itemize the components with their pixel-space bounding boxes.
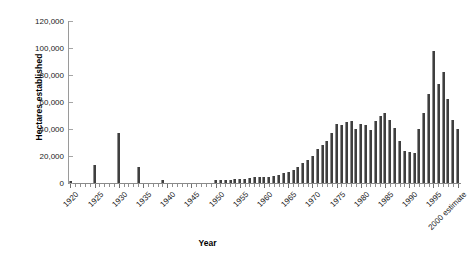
- x-axis-tick-mark: [143, 184, 144, 188]
- x-axis-tick-mark: [317, 184, 318, 187]
- bar: [364, 125, 367, 183]
- bar: [272, 176, 275, 183]
- x-axis-tick-mark: [109, 184, 110, 187]
- bar: [350, 121, 353, 183]
- x-axis-tick-mark: [245, 184, 246, 187]
- bar: [321, 145, 324, 183]
- bar: [354, 129, 357, 183]
- y-axis-tick-mark: [69, 75, 73, 76]
- bar: [137, 167, 140, 183]
- x-axis-tick-label: 1955: [231, 190, 250, 209]
- x-axis-tick-mark: [196, 184, 197, 187]
- x-axis-tick-mark: [167, 184, 168, 188]
- x-axis-tick-mark: [259, 184, 260, 187]
- x-axis-tick-mark: [128, 184, 129, 187]
- x-axis-tick-mark: [448, 184, 449, 187]
- bar: [340, 125, 343, 183]
- bar: [292, 170, 295, 183]
- x-axis-tick-mark: [341, 184, 342, 187]
- x-axis-tick-mark: [288, 184, 289, 188]
- bar: [393, 128, 396, 183]
- x-axis-tick-mark: [419, 184, 420, 187]
- bar: [161, 180, 164, 183]
- bar: [369, 130, 372, 183]
- bar: [258, 177, 261, 183]
- x-axis-tick-mark: [356, 184, 357, 187]
- bar: [442, 72, 445, 183]
- bar: [287, 172, 290, 183]
- x-axis-tick-mark: [298, 184, 299, 187]
- x-axis-tick-label: 1965: [280, 190, 299, 209]
- x-axis-tick-mark: [90, 184, 91, 187]
- bar: [325, 141, 328, 183]
- x-axis-tick-mark: [191, 184, 192, 188]
- x-axis-tick-mark: [99, 184, 100, 187]
- x-axis-tick-mark: [322, 184, 323, 187]
- bar: [229, 180, 232, 184]
- bar: [379, 116, 382, 184]
- x-axis-tick-mark: [390, 184, 391, 187]
- x-axis-tick-mark: [303, 184, 304, 187]
- bar: [388, 120, 391, 183]
- x-axis-tick-mark: [172, 184, 173, 187]
- x-axis-tick-label: 1980: [352, 190, 371, 209]
- x-axis-tick-label: 1975: [328, 190, 347, 209]
- y-axis-tick-labels: 020,00040,00060,00080,000100,000120,000: [0, 0, 64, 264]
- bar: [437, 84, 440, 183]
- bar: [432, 51, 435, 183]
- x-axis-tick-mark: [337, 184, 338, 188]
- bar: [262, 177, 265, 183]
- x-axis-tick-mark: [206, 184, 207, 187]
- bar: [422, 113, 425, 183]
- x-axis-tick-mark: [308, 184, 309, 187]
- bar: [296, 167, 299, 183]
- x-axis-tick-mark: [269, 184, 270, 187]
- bar: [233, 179, 236, 183]
- x-axis-tick-mark: [119, 184, 120, 188]
- x-axis-tick-mark: [158, 184, 159, 187]
- x-axis-tick-mark: [366, 184, 367, 187]
- bar: [93, 165, 96, 183]
- x-axis-tick-label: 1925: [86, 190, 105, 209]
- bar: [117, 133, 120, 183]
- bar: [219, 180, 222, 183]
- bar: [417, 129, 420, 183]
- x-axis-tick-mark: [153, 184, 154, 187]
- x-axis-tick-mark: [114, 184, 115, 187]
- y-axis-tick-mark: [69, 48, 73, 49]
- bar: [427, 94, 430, 183]
- x-axis-tick-mark: [424, 184, 425, 187]
- x-axis-tick-mark: [346, 184, 347, 187]
- x-axis-tick-mark: [254, 184, 255, 187]
- y-axis-tick-label: 0: [4, 179, 64, 188]
- x-axis-tick-mark: [133, 184, 134, 187]
- x-axis-tick-label: 1945: [183, 190, 202, 209]
- x-axis-tick-mark: [395, 184, 396, 187]
- x-axis-tick-label: 1995: [425, 190, 444, 209]
- x-axis-tick-mark: [400, 184, 401, 187]
- y-axis-tick-mark: [69, 156, 73, 157]
- bar: [383, 113, 386, 183]
- x-axis-tick-mark: [438, 184, 439, 187]
- x-axis-tick-label: 1960: [255, 190, 274, 209]
- bar: [398, 141, 401, 183]
- x-axis-tick-mark: [235, 184, 236, 187]
- x-axis-tick-mark: [453, 184, 454, 187]
- x-axis-tick-label: 1940: [159, 190, 178, 209]
- x-axis-tick-mark: [443, 184, 444, 187]
- x-axis-tick-mark: [433, 184, 434, 188]
- x-axis-tick-mark: [70, 184, 71, 188]
- x-axis-tick-mark: [104, 184, 105, 187]
- x-axis-tick-mark: [274, 184, 275, 187]
- bar-series: [68, 21, 460, 183]
- x-axis-tick-mark: [279, 184, 280, 187]
- x-axis-tick-mark: [458, 184, 459, 188]
- x-axis-tick-mark: [225, 184, 226, 187]
- x-axis-tick-mark: [327, 184, 328, 187]
- x-axis-tick-mark: [177, 184, 178, 187]
- x-axis-tick-mark: [211, 184, 212, 187]
- x-axis-tick-label: 1985: [376, 190, 395, 209]
- x-axis-tick-mark: [293, 184, 294, 187]
- y-axis-tick-label: 40,000: [4, 125, 64, 134]
- x-axis-tick-mark: [220, 184, 221, 187]
